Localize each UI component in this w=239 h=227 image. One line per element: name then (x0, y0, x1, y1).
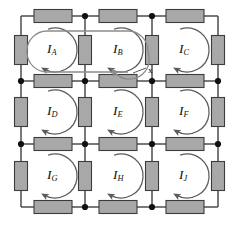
resistor-vertical (212, 98, 225, 127)
mesh-current-subscript: H (118, 174, 124, 183)
mesh-current-label-ij: IJ (179, 167, 187, 183)
junction-node (149, 204, 155, 210)
junction-node (149, 13, 155, 19)
mesh-current-subscript: J (184, 174, 188, 183)
resistor-horizontal (99, 138, 137, 151)
resistor-horizontal (34, 75, 72, 88)
resistor-vertical (15, 162, 28, 191)
resistor-horizontal (166, 75, 204, 88)
resistor-horizontal (34, 201, 72, 214)
resistor-horizontal (34, 138, 72, 151)
junction-node (149, 78, 155, 84)
junction-node (82, 204, 88, 210)
resistor-vertical (146, 162, 159, 191)
resistor-vertical (146, 98, 159, 127)
mesh-current-subscript: B (118, 48, 123, 57)
mesh-current-label-ig: IG (47, 167, 58, 183)
resistor-vertical (15, 36, 28, 65)
mesh-current-subscript: G (52, 174, 58, 183)
resistor-vertical (79, 98, 92, 127)
mesh-current-label-if: IF (179, 103, 189, 119)
x-annotation-label: x (148, 65, 153, 75)
mesh-current-label-ic: IC (179, 41, 189, 57)
mesh-current-label-ih: IH (113, 167, 124, 183)
junction-node (82, 13, 88, 19)
mesh-current-subscript: F (184, 110, 189, 119)
mesh-current-label-ie: IE (113, 103, 123, 119)
resistor-vertical (212, 162, 225, 191)
mesh-current-label-id: ID (47, 103, 58, 119)
junction-node (215, 78, 221, 84)
mesh-current-label-ib: IB (113, 41, 123, 57)
resistor-vertical (79, 36, 92, 65)
mesh-current-subscript: E (118, 110, 123, 119)
resistor-horizontal (99, 10, 137, 23)
junction-node (82, 141, 88, 147)
mesh-current-subscript: C (184, 48, 190, 57)
junction-node (18, 78, 24, 84)
circuit-figure: IAIBICIDIEIFIGIHIJ x (0, 0, 239, 227)
resistor-horizontal (34, 10, 72, 23)
resistor-horizontal (166, 138, 204, 151)
resistor-vertical (79, 162, 92, 191)
mesh-current-subscript: A (52, 48, 57, 57)
junction-node (149, 141, 155, 147)
resistor-horizontal (166, 201, 204, 214)
junction-node (215, 141, 221, 147)
resistor-vertical (15, 98, 28, 127)
mesh-current-label-ia: IA (47, 41, 57, 57)
resistor-vertical (212, 36, 225, 65)
junction-node (82, 78, 88, 84)
resistor-horizontal (99, 201, 137, 214)
junction-node (18, 141, 24, 147)
mesh-current-subscript: D (52, 110, 58, 119)
resistor-horizontal (166, 10, 204, 23)
